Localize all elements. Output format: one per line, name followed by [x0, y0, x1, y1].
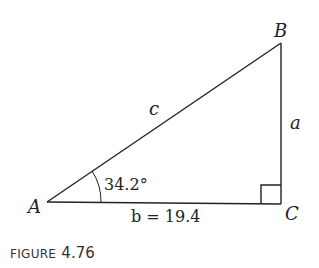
- side-b: [47, 202, 281, 204]
- vertex-label-B: B: [273, 20, 287, 41]
- right-triangle-diagram: B A C c a b = 19.4 34.2°: [0, 0, 319, 268]
- caption-number: 4.76: [61, 244, 94, 262]
- side-label-a: a: [290, 112, 301, 133]
- angle-label-A: 34.2°: [104, 175, 148, 194]
- right-angle-marker: [261, 185, 281, 204]
- vertex-label-A: A: [26, 196, 41, 217]
- figure-caption: FIGURE 4.76: [10, 243, 95, 262]
- vertex-label-C: C: [285, 203, 299, 224]
- side-label-b: b = 19.4: [131, 207, 200, 226]
- caption-word: FIGURE: [10, 247, 56, 261]
- side-c-hypotenuse: [47, 43, 281, 202]
- side-label-c: c: [149, 98, 159, 119]
- angle-arc-A: [92, 171, 101, 203]
